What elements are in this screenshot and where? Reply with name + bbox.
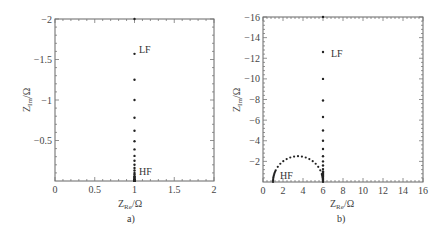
data-point: [133, 140, 135, 142]
data-point: [133, 117, 135, 119]
panel-b-lf-label: LF: [331, 48, 343, 59]
x-tick-label: 12: [378, 185, 388, 196]
panel-b-tick-labels: 0246810121416−16−14−12−10−8−6−4−2: [244, 12, 428, 197]
data-point: [133, 155, 135, 157]
panel-b-hf-label: HF: [280, 170, 293, 181]
panel-b-y-axis-label: ZIm/Ω: [231, 88, 244, 112]
x-tick-label: 2: [281, 185, 286, 196]
y-tick-label: −0.5: [34, 135, 52, 146]
data-point: [289, 156, 291, 158]
data-point: [322, 164, 324, 166]
panel-a-y-axis-label: ZIm/Ω: [21, 88, 34, 112]
panel-b-ticks: [263, 17, 423, 182]
data-point: [133, 167, 135, 169]
panel-a-tick-labels: 00.511.52−2−1.5−1−0.5: [34, 14, 217, 196]
nyquist-figure: 00.511.52−2−1.5−1−0.5 LF HF ZRe/Ω ZIm/Ω …: [0, 0, 447, 237]
data-point: [322, 51, 324, 53]
data-point: [133, 79, 135, 81]
x-tick-label: 2: [212, 184, 217, 195]
y-tick-label: −2: [249, 156, 260, 167]
data-point: [319, 169, 321, 171]
x-tick-label: 10: [358, 185, 368, 196]
data-point: [322, 78, 324, 80]
data-point: [133, 18, 135, 20]
y-tick-label: −1.5: [34, 54, 52, 65]
data-point: [322, 180, 324, 182]
panel-b-data-points: [272, 16, 324, 183]
panel-b-x-axis-label: ZRe/Ω: [330, 198, 354, 211]
data-point: [297, 155, 299, 157]
y-tick-label: −12: [244, 53, 260, 64]
data-point: [286, 158, 288, 160]
panel-a-data-points: [133, 18, 135, 182]
data-point: [277, 166, 279, 168]
data-point: [322, 140, 324, 142]
x-tick-label: 14: [398, 185, 408, 196]
x-tick-label: 0: [53, 184, 58, 195]
data-point: [279, 163, 281, 165]
panel-b-frame: [263, 17, 423, 182]
data-point: [322, 168, 324, 170]
data-point: [133, 160, 135, 162]
data-point: [305, 156, 307, 158]
y-tick-label: −14: [244, 32, 260, 43]
panel-a-plot: 00.511.52−2−1.5−1−0.5 LF HF ZRe/Ω ZIm/Ω …: [21, 14, 217, 226]
data-point: [322, 160, 324, 162]
data-point: [317, 166, 319, 168]
y-tick-label: −4: [249, 135, 260, 146]
panel-b-caption: b): [337, 213, 345, 225]
data-point: [282, 160, 284, 162]
panel-a-x-axis-label: ZRe/Ω: [118, 198, 142, 211]
data-point: [308, 158, 310, 160]
data-point: [133, 99, 135, 101]
x-tick-label: 0.5: [89, 184, 102, 195]
y-tick-label: −1: [41, 95, 52, 106]
data-point: [133, 164, 135, 166]
data-point: [322, 116, 324, 118]
x-tick-label: 1.5: [168, 184, 181, 195]
data-point: [322, 16, 324, 18]
data-point: [322, 155, 324, 157]
panel-a-hf-label: HF: [139, 166, 152, 177]
data-point: [133, 130, 135, 132]
data-point: [133, 169, 135, 171]
x-tick-label: 4: [301, 185, 306, 196]
x-tick-label: 1: [132, 184, 137, 195]
data-point: [293, 155, 295, 157]
y-tick-label: −10: [244, 73, 260, 84]
data-point: [133, 53, 135, 55]
data-point: [322, 129, 324, 131]
x-tick-label: 16: [418, 185, 428, 196]
data-point: [312, 160, 314, 162]
data-point: [322, 148, 324, 150]
y-tick-label: −2: [41, 14, 52, 25]
data-point: [315, 163, 317, 165]
x-tick-label: 6: [321, 185, 326, 196]
data-point: [275, 169, 277, 171]
data-point: [301, 155, 303, 157]
data-point: [322, 99, 324, 101]
y-tick-label: −8: [249, 94, 260, 105]
x-tick-label: 8: [341, 185, 346, 196]
panel-a-lf-label: LF: [139, 44, 151, 55]
data-point: [133, 180, 135, 182]
panel-a-caption: a): [127, 213, 135, 225]
data-point: [133, 148, 135, 150]
x-tick-label: 0: [261, 185, 266, 196]
panel-b-plot: 0246810121416−16−14−12−10−8−6−4−2 LF HF …: [231, 12, 428, 226]
y-tick-label: −6: [249, 115, 260, 126]
y-tick-label: −16: [244, 12, 260, 23]
